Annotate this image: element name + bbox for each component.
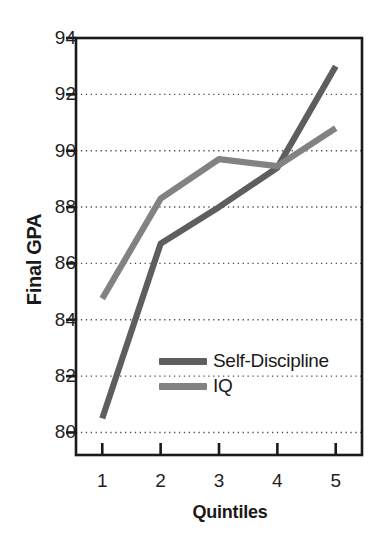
x-axis-title: Quintiles: [85, 502, 375, 523]
legend-swatch-self-discipline: [159, 358, 207, 365]
legend-swatch-iq: [159, 383, 207, 390]
chart-legend: Self-DisciplineIQ: [0, 0, 389, 552]
chart-figure: 8082848688909294 12345 Self-DisciplineIQ…: [0, 0, 389, 552]
legend-label-iq[interactable]: IQ: [213, 376, 232, 395]
legend-label-self-discipline[interactable]: Self-Discipline: [213, 351, 329, 370]
y-axis-title: Final GPA: [23, 180, 46, 340]
